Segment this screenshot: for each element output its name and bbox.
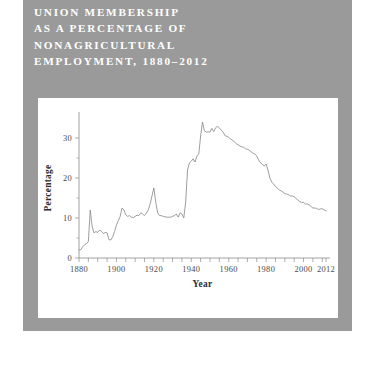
x-axis-tick-labels: 18801900192019401960198020002012 (70, 265, 335, 274)
svg-text:2000: 2000 (294, 265, 312, 274)
x-axis-ticks (79, 258, 326, 262)
title-line-4: EMPLOYMENT, 1880–2012 (34, 53, 334, 69)
svg-text:10: 10 (63, 214, 72, 223)
chart-card: 0102030 18801900192019401960198020002012… (38, 98, 338, 318)
svg-text:2012: 2012 (317, 265, 335, 274)
y-axis-ticks (75, 138, 79, 258)
svg-text:1980: 1980 (257, 265, 275, 274)
svg-text:0: 0 (67, 254, 72, 263)
x-axis-title: Year (193, 279, 213, 289)
page-title: UNION MEMBERSHIP AS A PERCENTAGE OF NONA… (34, 4, 334, 70)
line-chart: 0102030 18801900192019401960198020002012… (38, 98, 338, 318)
svg-text:1920: 1920 (145, 265, 163, 274)
title-line-3: NONAGRICULTURAL (34, 37, 334, 53)
svg-text:1880: 1880 (70, 265, 88, 274)
svg-text:20: 20 (63, 174, 72, 183)
data-series-line (79, 122, 326, 250)
svg-text:1960: 1960 (220, 265, 238, 274)
title-line-1: UNION MEMBERSHIP (34, 4, 334, 20)
y-axis-title: Percentage (43, 164, 53, 211)
y-axis-tick-labels: 0102030 (63, 134, 72, 263)
svg-text:1940: 1940 (182, 265, 200, 274)
svg-text:30: 30 (63, 134, 72, 143)
svg-text:1900: 1900 (107, 265, 125, 274)
page-root: UNION MEMBERSHIP AS A PERCENTAGE OF NONA… (0, 0, 376, 378)
title-line-2: AS A PERCENTAGE OF (34, 20, 334, 36)
